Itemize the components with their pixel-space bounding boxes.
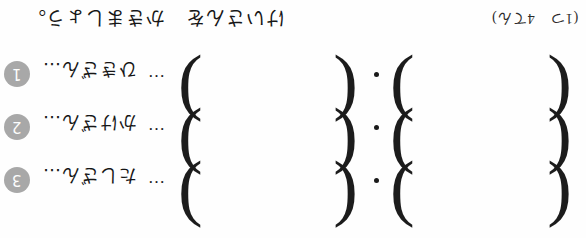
paren-open-icon: (: [390, 150, 415, 224]
instruction-label: けいさんを かきましょう。: [26, 6, 285, 33]
problem-number-badge: 3: [4, 167, 30, 193]
problem-number: 3: [12, 167, 22, 193]
answer-blank-1[interactable]: ( ): [178, 160, 358, 208]
problem-label: かけざん…: [42, 111, 137, 137]
problem-label-text: かけざん…: [42, 111, 137, 137]
problem-row: 1 ひきざん… … ( ) ( ): [0, 52, 586, 104]
problem-row: 2 かけざん… … ( ) ( ): [0, 105, 586, 157]
problem-number-badge: 2: [4, 114, 30, 140]
separator-dot-icon: [374, 125, 379, 130]
problem-number: 2: [12, 114, 22, 140]
answer-blank-2[interactable]: ( ): [390, 107, 572, 155]
problem-number: 1: [12, 61, 22, 87]
header: けいさんを かきましょう。 (1つ 4てん): [0, 6, 586, 40]
separator-dot-icon: [374, 178, 379, 183]
answer-blank-1[interactable]: ( ): [178, 54, 358, 102]
ellipsis: …: [148, 115, 167, 135]
points-note-label: (1つ 4てん): [491, 10, 578, 30]
ellipsis: …: [148, 168, 167, 188]
answer-blank-2[interactable]: ( ): [390, 160, 572, 208]
problem-label-text: たしざん…: [42, 164, 137, 190]
instruction-text: けいさんを かきましょう。: [26, 6, 285, 33]
paren-open-icon: (: [178, 150, 203, 224]
answer-blank-2[interactable]: ( ): [390, 54, 572, 102]
ellipsis: …: [148, 62, 167, 82]
points-note: (1つ 4てん): [491, 10, 578, 30]
worksheet-page: けいさんを かきましょう。 (1つ 4てん) 1 ひきざん… … ( ) ( )…: [0, 0, 586, 238]
problem-label: たしざん…: [42, 164, 137, 190]
paren-close-icon: ): [333, 150, 358, 224]
problem-label: ひきざん…: [42, 58, 137, 84]
problem-row: 3 たしざん… … ( ) ( ): [0, 158, 586, 210]
paren-close-icon: ): [547, 150, 572, 224]
answer-blank-1[interactable]: ( ): [178, 107, 358, 155]
problem-label-text: ひきざん…: [42, 58, 137, 84]
problem-number-badge: 1: [4, 61, 30, 87]
separator-dot-icon: [374, 72, 379, 77]
